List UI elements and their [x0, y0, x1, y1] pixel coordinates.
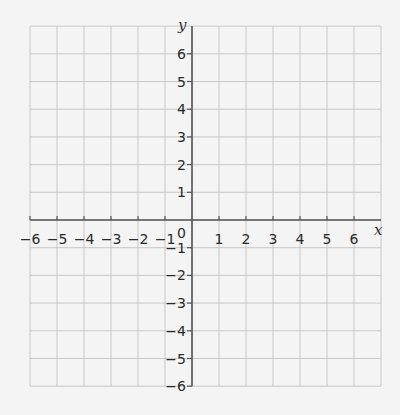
- y-tick-label: −5: [165, 351, 186, 367]
- x-tick-label: −6: [20, 231, 41, 247]
- axes: [30, 26, 381, 386]
- grid-lines: [30, 26, 381, 386]
- x-tick-label: 2: [242, 231, 251, 247]
- y-tick-label: −2: [165, 267, 186, 283]
- coordinate-plane: −6−5−4−3−2−1123456654321−1−2−3−4−5−6 x y…: [0, 0, 400, 415]
- x-tick-label: 5: [323, 231, 332, 247]
- y-tick-label: 2: [177, 157, 186, 173]
- x-tick-label: −2: [128, 231, 149, 247]
- x-tick-label: 4: [296, 231, 305, 247]
- x-tick-label: −3: [101, 231, 122, 247]
- x-tick-label: 6: [350, 231, 359, 247]
- y-tick-label: −1: [165, 240, 186, 256]
- y-tick-label: 3: [177, 129, 186, 145]
- y-tick-label: −6: [165, 378, 186, 394]
- x-tick-label: −5: [47, 231, 68, 247]
- y-tick-label: −3: [165, 295, 186, 311]
- x-tick-label: 3: [269, 231, 278, 247]
- x-axis-label: x: [374, 221, 383, 239]
- y-tick-label: 1: [177, 184, 186, 200]
- y-tick-label: 5: [177, 74, 186, 90]
- y-tick-label: 6: [177, 46, 186, 62]
- x-tick-label: −4: [74, 231, 95, 247]
- y-tick-label: −4: [165, 323, 186, 339]
- x-tick-label: 1: [215, 231, 224, 247]
- origin-label: 0: [177, 225, 186, 241]
- y-tick-label: 4: [177, 101, 186, 117]
- y-axis-label: y: [177, 16, 187, 34]
